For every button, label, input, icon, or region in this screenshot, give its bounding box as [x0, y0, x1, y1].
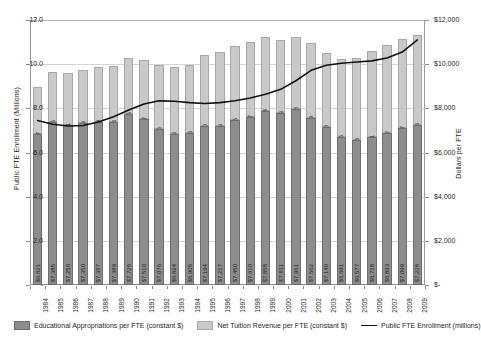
y-axis-left-tick [26, 153, 30, 154]
bar-label-appropriations: $7,099 [399, 264, 405, 282]
bar-group: $3,043$6,824 [170, 67, 179, 285]
x-axis-tick [273, 286, 274, 289]
y-axis-left-tick-label: 8.0 [33, 104, 43, 111]
chart-legend: Educational Appropriations per FTE (cons… [14, 318, 466, 332]
legend-label-appropriations: Educational Appropriations per FTE (cons… [34, 322, 183, 329]
bar-segment-tuition: $3,230 [200, 55, 209, 126]
x-axis-tick [212, 286, 213, 289]
x-axis-tick [45, 286, 46, 289]
x-axis-tick-label: 1998 [254, 298, 261, 312]
x-axis-tick [182, 286, 183, 289]
bar-label-appropriations: $6,691 [338, 264, 344, 282]
plot-area: $2,147$6,821$2,245$7,385$2,341$7,256$2,4… [30, 20, 425, 285]
bar-group: $3,982$6,893 [382, 45, 391, 285]
y-axis-right-tick-label: $12,000 [434, 16, 459, 23]
bar-label-appropriations: $7,228 [414, 264, 420, 282]
legend-label-tuition: Net Tuition Revenue per FTE (constant $) [217, 322, 347, 329]
bar-segment-tuition: $4,106 [413, 35, 422, 126]
x-axis-tick-label: 1997 [239, 298, 246, 312]
bar-group: $3,360$7,140 [322, 53, 331, 285]
bar-label-appropriations: $7,961 [293, 264, 299, 282]
x-axis-tick-label: 1990 [132, 298, 139, 312]
bar-label-appropriations: $6,577 [354, 264, 360, 282]
bar-segment-tuition: $3,384 [261, 37, 270, 112]
bar-group: $3,891$6,718 [367, 51, 376, 285]
bar-label-appropriations: $7,387 [95, 264, 101, 282]
x-axis-tick-label: 1986 [72, 298, 79, 312]
x-axis-tick [319, 286, 320, 289]
bar-label-appropriations: $7,450 [232, 264, 238, 282]
bar-label-appropriations: $7,217 [217, 264, 223, 282]
y-axis-left-tick-label: 2.0 [33, 237, 43, 244]
legend-item-enrollment: Public FTE Enrollment (millions) [361, 322, 481, 329]
bar-segment-tuition: $3,343 [215, 52, 224, 126]
bar-group: $4,027$7,099 [398, 39, 407, 285]
x-axis-tick [106, 286, 107, 289]
x-axis-tick [197, 286, 198, 289]
x-axis-tick-label: 2002 [315, 298, 322, 312]
x-axis-tick-label: 1988 [102, 298, 109, 312]
bar-segment-appropriations: $7,610 [246, 117, 255, 285]
bar-segment-appropriations: $6,824 [170, 134, 179, 285]
x-axis-tick [334, 286, 335, 289]
x-axis-tick-label: 1985 [57, 298, 64, 312]
bar-label-appropriations: $7,725 [126, 264, 132, 282]
x-axis-tick-label: 2003 [330, 298, 337, 312]
bar-label-appropriations: $6,824 [171, 264, 177, 282]
bar-segment-tuition: $3,891 [367, 51, 376, 137]
bar-label-appropriations: $7,350 [80, 264, 86, 282]
bar-group: $3,389$7,562 [306, 43, 315, 285]
bar-group: $3,230$7,194 [200, 55, 209, 285]
x-axis-tick-label: 2005 [360, 298, 367, 312]
y-axis-right-tick-label: $6,000 [434, 149, 455, 156]
bar-segment-tuition: $2,657 [139, 60, 148, 119]
y-axis-right-tick [425, 241, 429, 242]
bar-label-appropriations: $7,194 [202, 264, 208, 282]
bar-group: $3,387$7,610 [246, 42, 255, 285]
x-axis-tick-label: 1993 [178, 298, 185, 312]
y-axis-left-tick-label: 6.0 [33, 149, 43, 156]
bar-segment-appropriations: $7,140 [322, 127, 331, 285]
y-axis-left-tick [26, 197, 30, 198]
bar-segment-appropriations: $7,194 [200, 126, 209, 285]
x-axis-tick [258, 286, 259, 289]
x-axis-tick [76, 286, 77, 289]
bar-segment-tuition: $4,027 [398, 39, 407, 128]
x-axis-tick-label: 2008 [406, 298, 413, 312]
bar-label-appropriations: $7,389 [111, 264, 117, 282]
y-axis-left-tick-label: 10.0 [29, 60, 43, 67]
bar-label-appropriations: $7,858 [262, 264, 268, 282]
bar-group: $3,293$7,811 [276, 40, 285, 285]
y-axis-right-tick-label: $8,000 [434, 104, 455, 111]
bar-segment-appropriations: $7,858 [261, 111, 270, 285]
bar-group: $2,469$7,387 [94, 67, 103, 285]
bar-segment-appropriations: $6,893 [382, 133, 391, 285]
bar-segment-appropriations: $7,099 [398, 128, 407, 285]
bar-group: $3,375$7,450 [230, 46, 239, 285]
legend-swatch-enrollment [361, 325, 377, 326]
bar-label-appropriations: $7,811 [278, 264, 284, 282]
bar-group: $3,384$7,858 [261, 37, 270, 285]
legend-swatch-appropriations [14, 321, 30, 330]
y-axis-left-tick [26, 108, 30, 109]
bar-group: $2,403$7,350 [78, 70, 87, 285]
bar-segment-tuition: $3,293 [276, 40, 285, 113]
x-axis-tick [410, 286, 411, 289]
bar-group: $2,657$7,510 [139, 60, 148, 285]
bar-segment-appropriations: $7,562 [306, 118, 315, 285]
bar-label-appropriations: $7,610 [247, 264, 253, 282]
bar-segment-tuition: $3,375 [230, 46, 239, 121]
x-axis-tick-label: 2006 [376, 298, 383, 312]
y-axis-left-tick-label: 12.0 [29, 16, 43, 23]
x-axis-tick-label: 1987 [87, 298, 94, 312]
bar-label-appropriations: $7,562 [308, 264, 314, 282]
y-axis-right-tick [425, 20, 429, 21]
bar-group: $3,046$6,905 [185, 65, 194, 285]
bar-group: $2,518$7,389 [109, 66, 118, 285]
x-axis-tick [30, 286, 31, 289]
x-axis-tick [121, 286, 122, 289]
x-axis-tick [379, 286, 380, 289]
bar-label-appropriations: $7,385 [50, 264, 56, 282]
bar-label-appropriations: $6,905 [187, 264, 193, 282]
x-axis-tick [91, 286, 92, 289]
